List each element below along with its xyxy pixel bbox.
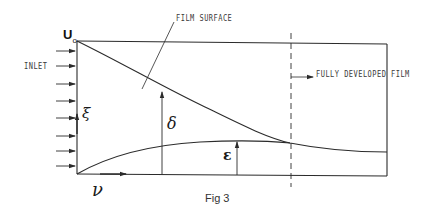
channel-walls (77, 41, 387, 176)
boundary-layer-curve (77, 141, 290, 174)
film-surface-curve (77, 41, 387, 152)
velocity-subscript: o (72, 36, 76, 45)
velocity-label: Uo (63, 28, 77, 45)
velocity-symbol: U (63, 27, 72, 42)
figure-caption: Fig 3 (205, 193, 229, 204)
nu-symbol: ν (92, 181, 103, 199)
xi-symbol: ξ (82, 106, 90, 121)
film-surface-leader (142, 22, 174, 89)
inlet-arrows (56, 51, 75, 166)
film-surface-label: FILM SURFACE (176, 14, 232, 23)
top-wall (77, 41, 387, 44)
film-development-diagram: Uo INLET FILM SURFACE FULLY DEVELOPED FI… (0, 0, 446, 219)
fully-developed-film-label: FULLY DEVELOPED FILM (316, 70, 410, 79)
inlet-label: INLET (24, 62, 47, 71)
delta-symbol: δ (167, 116, 177, 132)
epsilon-symbol: ε (223, 148, 232, 162)
